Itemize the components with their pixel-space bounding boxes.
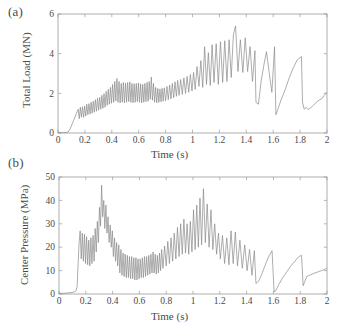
x-tick-label: 1.8 xyxy=(294,135,306,145)
y-tick-label: 30 xyxy=(46,219,56,229)
x-tick-label: 2 xyxy=(325,296,330,306)
x-tick-label: 1.2 xyxy=(213,135,225,145)
total-load-panel: (a) Total Load (MN) 00.20.40.60.811.21.4… xyxy=(0,0,339,165)
x-tick-label: 1.4 xyxy=(240,135,252,145)
x-tick-label: 0 xyxy=(56,135,61,145)
center-pressure-panel: (b) Center Pressure (MPa) 00.20.40.60.81… xyxy=(0,155,339,329)
x-tick-label: 1 xyxy=(190,135,195,145)
x-tick-label: 1.8 xyxy=(294,296,306,306)
x-tick-label: 0 xyxy=(57,296,62,306)
x-tick-label: 1 xyxy=(191,296,196,306)
panel-b-plot: 00.20.40.60.811.21.41.61.8201020304050 xyxy=(0,155,339,329)
y-tick-label: 0 xyxy=(49,128,54,138)
x-tick-label: 1.6 xyxy=(267,135,279,145)
y-tick-label: 40 xyxy=(46,196,56,206)
y-tick-label: 10 xyxy=(46,266,56,276)
y-tick-label: 50 xyxy=(46,172,56,182)
x-tick-label: 0.6 xyxy=(133,296,145,306)
panel-b-x-axis-label: Time (s) xyxy=(0,310,339,322)
y-tick-label: 20 xyxy=(46,242,56,252)
x-tick-label: 1.6 xyxy=(267,296,279,306)
y-tick-label: 2 xyxy=(49,89,54,99)
data-series-line xyxy=(59,185,327,293)
x-tick-label: 1.2 xyxy=(214,296,226,306)
y-tick-label: 0 xyxy=(50,289,55,299)
x-tick-label: 0.8 xyxy=(160,296,172,306)
panel-a-plot: 00.20.40.60.811.21.41.61.820246 xyxy=(0,0,339,165)
figure-container: (a) Total Load (MN) 00.20.40.60.811.21.4… xyxy=(0,0,339,329)
y-tick-label: 6 xyxy=(49,9,54,19)
x-tick-label: 0.2 xyxy=(79,135,91,145)
y-tick-label: 4 xyxy=(49,49,54,59)
x-tick-label: 0.2 xyxy=(80,296,92,306)
x-tick-label: 0.6 xyxy=(133,135,145,145)
x-tick-label: 0.8 xyxy=(160,135,172,145)
x-tick-label: 0.4 xyxy=(107,296,119,306)
x-tick-label: 1.4 xyxy=(241,296,253,306)
data-series-line xyxy=(58,26,327,133)
x-tick-label: 0.4 xyxy=(106,135,118,145)
x-tick-label: 2 xyxy=(325,135,330,145)
